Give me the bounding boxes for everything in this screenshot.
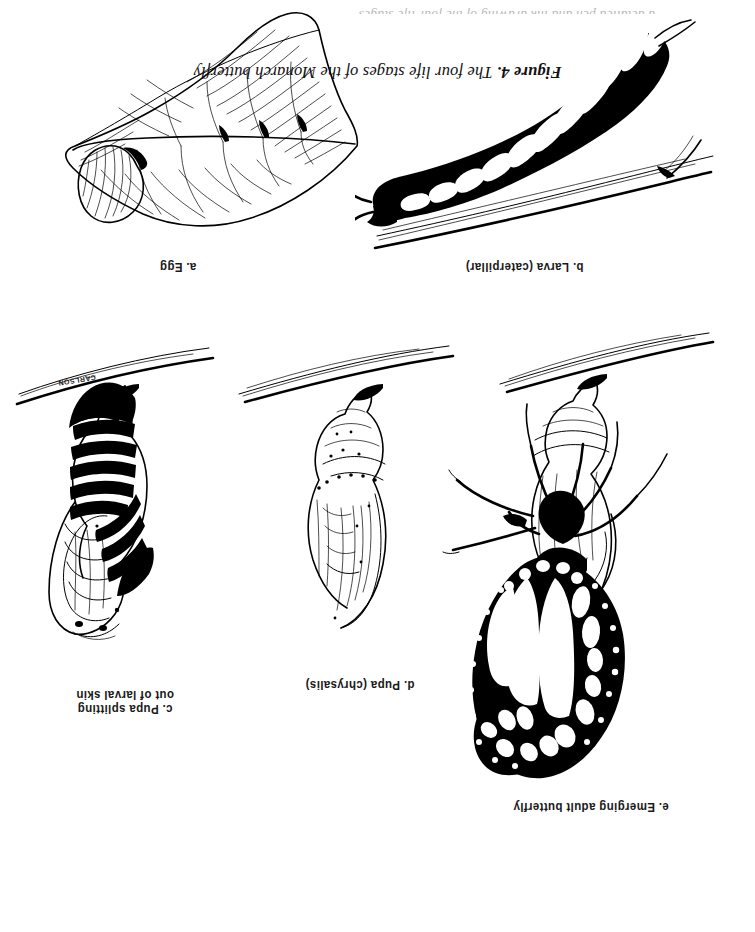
branch-e xyxy=(500,333,713,392)
panel-label-b: b. Larva (caterpillar) xyxy=(421,260,628,274)
chrysalis-gold-band xyxy=(317,431,377,490)
panel-emerging-adult-butterfly xyxy=(430,322,715,782)
chrysalis-body xyxy=(308,388,386,628)
illustration-caterpillar xyxy=(355,17,715,252)
panel-larva-caterpillar xyxy=(355,17,715,252)
branch-d xyxy=(239,346,453,402)
figure-caption: Figure 4. The four life stages of the Mo… xyxy=(0,62,755,82)
milkweed-leaf xyxy=(66,13,358,226)
panel-label-a: a. Egg xyxy=(118,260,238,274)
illustration-adult-butterfly xyxy=(430,322,715,782)
figure-caption-text: The four life stages of the Monarch butt… xyxy=(194,63,493,82)
caterpillar-body xyxy=(355,20,695,227)
panel-pupa-chrysalis xyxy=(235,342,455,632)
panel-label-d: d. Pupa (chrysalis) xyxy=(273,678,448,692)
figure-number: Figure 4. xyxy=(497,63,562,82)
panel-egg-on-leaf xyxy=(30,2,375,242)
panel-pupa-splitting xyxy=(15,344,215,644)
scanned-page: a detailed pen and ink drawing of the fo… xyxy=(0,0,755,932)
illustration-egg-on-leaf xyxy=(30,2,375,242)
butterfly-wings xyxy=(468,556,625,778)
pupa-emerging-body xyxy=(49,383,154,640)
panel-label-c: c. Pupa splitting out of larval skin xyxy=(42,688,208,716)
illustration-pupa-splitting xyxy=(15,344,215,644)
illustration-chrysalis xyxy=(235,342,455,632)
butterfly-antennae xyxy=(443,470,535,554)
panel-label-e: e. Emerging adult butterfly xyxy=(481,800,702,814)
